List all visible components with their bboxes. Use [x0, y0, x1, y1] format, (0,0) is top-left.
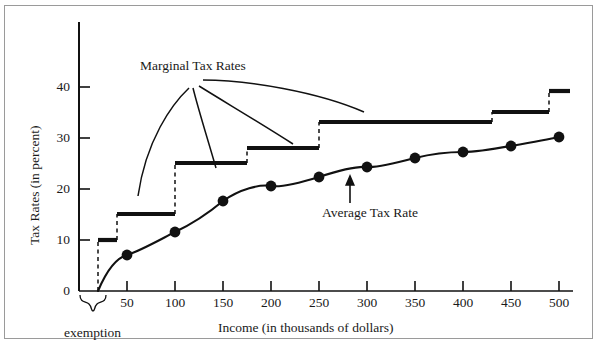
leader-to-15pct-step — [138, 88, 189, 196]
data-point-250 — [314, 172, 325, 183]
data-point-50 — [122, 250, 133, 261]
x-tick-label-400: 400 — [443, 295, 483, 311]
data-point-200 — [266, 181, 277, 192]
x-tick-label-450: 450 — [491, 295, 531, 311]
average-label-arrow — [346, 176, 354, 203]
y-axis-ticks — [79, 87, 90, 240]
y-tick-label-40: 40 — [40, 79, 70, 95]
x-tick-label-200: 200 — [251, 295, 291, 311]
exemption-brace — [80, 295, 106, 311]
x-tick-label-350: 350 — [395, 295, 435, 311]
x-tick-label-150: 150 — [203, 295, 243, 311]
y-tick-label-10: 10 — [40, 232, 70, 248]
tax-rates-figure: 40 30 20 10 0 50 100 150 200 250 300 350… — [0, 0, 599, 350]
x-tick-label-300: 300 — [347, 295, 387, 311]
x-axis-ticks — [127, 281, 559, 291]
x-tick-label-250: 250 — [299, 295, 339, 311]
x-tick-label-100: 100 — [155, 295, 195, 311]
y-axis-title: Tax Rates (in percent) — [27, 126, 43, 245]
x-tick-label-500: 500 — [539, 295, 579, 311]
marginal-tax-rates-label: Marginal Tax Rates — [140, 58, 246, 74]
exemption-label: exemption — [64, 325, 121, 341]
data-point-500 — [554, 132, 565, 143]
leader-to-28pct-step — [199, 86, 293, 144]
data-point-400 — [458, 147, 469, 158]
leader-to-33pct-step — [203, 80, 364, 112]
arrow-head — [346, 176, 354, 185]
x-tick-label-50: 50 — [107, 295, 147, 311]
data-point-150 — [218, 196, 229, 207]
average-tax-rate-label: Average Tax Rate — [322, 205, 418, 221]
x-axis-title: Income (in thousands of dollars) — [218, 320, 393, 336]
y-tick-label-0: 0 — [40, 283, 70, 299]
y-tick-label-30: 30 — [40, 130, 70, 146]
y-tick-label-20: 20 — [40, 181, 70, 197]
data-point-300 — [362, 162, 373, 173]
data-point-350 — [410, 153, 421, 164]
data-point-450 — [506, 141, 517, 152]
marginal-label-leader-lines — [138, 80, 364, 196]
leader-to-25pct-step — [193, 88, 216, 168]
average-tax-rate-markers — [122, 132, 565, 261]
data-point-100 — [170, 227, 181, 238]
